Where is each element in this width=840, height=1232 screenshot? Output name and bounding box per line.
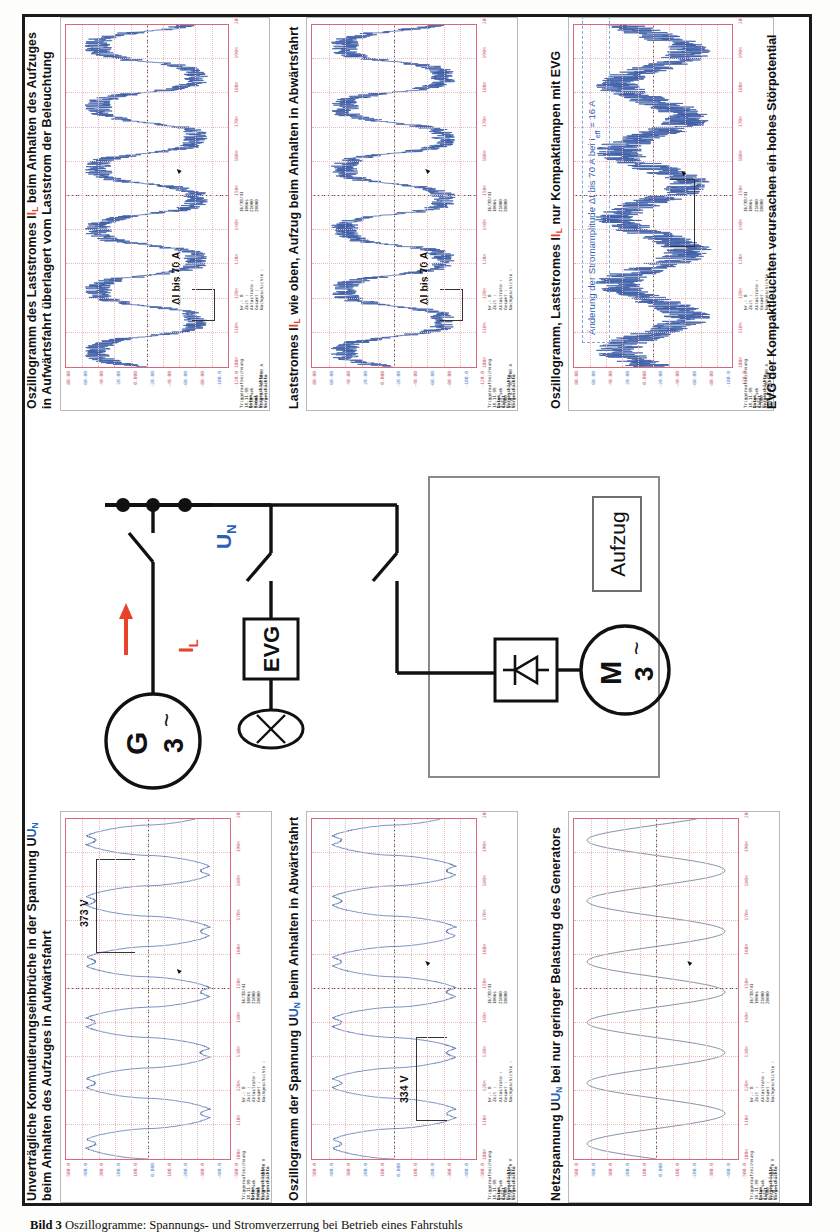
grid-line-h	[427, 25, 428, 367]
y-tick-label: -400.0	[217, 1163, 222, 1180]
parameter-column: 16/38/41100ms2100020000	[487, 983, 507, 1004]
y-tick-label: 20.00	[116, 371, 121, 385]
y-tick-label: 40.00	[608, 371, 613, 385]
parameter-row: 20000	[254, 191, 259, 212]
grid-line-v	[312, 886, 476, 887]
y-tick-label: 500.0	[66, 1163, 71, 1177]
grid-line-v	[312, 127, 476, 128]
caption-line-2: wie oben, Aufzug beim Anhalten in Abwärt…	[287, 27, 301, 319]
y-tick-label: 0.000	[150, 1163, 155, 1177]
grid-line-v	[574, 298, 732, 299]
lift-label: Aufzug	[606, 511, 629, 576]
parameter-column: 16/38/41100ms2100020000	[749, 983, 769, 1004]
y-tick-label: 100.0	[133, 1163, 138, 1177]
y-tick-label: 300.0	[608, 1163, 613, 1177]
grid-line-h	[607, 819, 608, 1159]
grid-line-v	[312, 229, 476, 230]
caption-subscript: L	[554, 228, 564, 233]
y-tick-label: -500.0	[742, 1163, 747, 1180]
scope-parameter-table: Triggeraufzeichnung18.11.995.23 sek2.000…	[241, 814, 269, 1200]
grid-line-h	[717, 25, 718, 367]
grid-line-v	[66, 229, 228, 230]
generator-label-g: G	[120, 732, 153, 755]
caption-subscript: L	[292, 318, 302, 323]
parameter-footer: DatumKanalVorgeschichteVorgeschichte	[758, 1166, 778, 1200]
scope-parameter-table: Triggeraufzeichnung18.11.995.23 sek2.000…	[487, 20, 515, 408]
rotated-figure-stage: Unverträgliche Kommutierungseinbrüche in…	[25, 17, 809, 1203]
column-circuit-diagram: G 3 ~ IL	[25, 415, 809, 805]
parameter-column: Nr.: 8Zeit :Abtastrate :Gesamt :Nachgesc…	[487, 1061, 512, 1102]
scope-y-axis: 80.0060.0040.0020.000.000-20.00-40.00-60…	[573, 370, 733, 408]
grid-line-h	[444, 25, 445, 367]
y-tick-label: 0.000	[380, 371, 385, 385]
generator-tilde: ~	[153, 713, 180, 727]
grid-line-v	[312, 161, 476, 162]
parameter-row: Nachgeschichte :	[508, 269, 513, 310]
parameter-footer-row: Vorgeschichte	[511, 374, 516, 408]
grid-line-v	[574, 263, 732, 264]
grid-line-v	[574, 58, 732, 59]
grid-line-v	[312, 332, 476, 333]
y-tick-label: 80.00	[66, 371, 71, 385]
parameter-row: 20000	[759, 191, 764, 212]
grid-line-v	[312, 852, 476, 853]
grid-line-v	[574, 886, 738, 887]
y-tick-label: -60.00	[430, 371, 435, 388]
y-tick-label: 500.0	[574, 1163, 579, 1177]
y-tick-label: -500.0	[234, 1163, 239, 1180]
grid-line-h	[82, 819, 83, 1159]
caption-line-3: in Aufwärtsfahrt überlagert vom Laststro…	[40, 51, 54, 409]
grid-line-h	[345, 819, 346, 1159]
grid-line-h	[606, 25, 607, 367]
grid-line-h	[669, 25, 670, 367]
parameter-row: Nachgeschichte :	[770, 1061, 775, 1102]
y-tick-label: -300.0	[709, 1163, 714, 1180]
grid-line-v	[66, 92, 228, 93]
grid-line-h	[345, 25, 346, 367]
annotation-text: Änderung der Stromamplitude ΔI bis 70 A …	[586, 138, 597, 335]
grid-line-h	[213, 819, 214, 1159]
y-tick-label: 500.0	[312, 1163, 317, 1177]
grid-line-h	[197, 819, 198, 1159]
panel-il-abwaerts: Laststromes IIL wie oben, Aufzug beim An…	[287, 17, 537, 411]
lighting-switch	[247, 553, 271, 581]
annotation-stromamplitude: Änderung der Stromamplitude ΔI bis 70 A …	[586, 100, 599, 335]
parameter-footer-row: Vorgeschichte	[263, 374, 268, 408]
grid-line-h	[181, 819, 182, 1159]
current-arrow-il	[119, 603, 133, 655]
y-tick-label: -400.0	[726, 1163, 731, 1180]
y-tick-label: 80.00	[312, 371, 317, 385]
y-tick-label: 0.000	[658, 1163, 663, 1177]
oscilloscope-screenshot: 80.0060.0040.0020.000.000-20.00-40.00-60…	[568, 17, 774, 411]
grid-line-v	[66, 195, 228, 196]
caption-subscript: N	[292, 1002, 302, 1008]
y-tick-label: 40.00	[346, 371, 351, 385]
oscilloscope-screenshot: 80.0060.0040.0020.000.000-20.00-40.00-60…	[306, 17, 518, 411]
parameter-row: Nachgeschichte :	[261, 1061, 266, 1102]
grid-line-h	[115, 819, 116, 1159]
y-tick-label: -80.00	[447, 371, 452, 388]
grid-line-v	[66, 298, 228, 299]
scope-y-axis: 500.0400.0300.0200.0100.00.000-100.0-200…	[65, 1162, 231, 1200]
parameter-column: Nr.: 8Zeit :Abtastrate :Gesamt :Nachgesc…	[487, 269, 512, 310]
oscilloscope-screenshot: 500.0400.0300.0200.0100.00.000-100.0-200…	[60, 811, 272, 1203]
scope-plot-area: Änderung der Stromamplitude ΔI bis 70 A …	[573, 24, 733, 368]
caption-line-2: nur Kompaktlampen mit EVG	[549, 51, 563, 228]
y-tick-label: -20.00	[658, 371, 663, 388]
parameter-column: Nr.: 8Zeit :Abtastrate :Gesamt :Nachgesc…	[241, 1061, 266, 1102]
parameter-row: Nachgeschichte :	[259, 269, 264, 310]
y-tick-label: 60.00	[83, 371, 88, 385]
y-tick-label: 0.000	[642, 371, 647, 385]
grid-line-h	[82, 25, 83, 367]
caption-line-1: Unverträgliche Kommutierungseinbrüche in…	[25, 838, 39, 1202]
y-tick-label: -400.0	[464, 1163, 469, 1180]
scope-y-axis: 80.0060.0040.0020.000.000-20.00-40.00-60…	[65, 370, 229, 408]
grid-line-v	[312, 1056, 476, 1057]
y-tick-label: 60.00	[591, 371, 596, 385]
grid-line-v	[574, 229, 732, 230]
grid-line-h	[591, 819, 592, 1159]
grid-line-v	[66, 920, 230, 921]
grid-line-h	[329, 25, 330, 367]
grid-line-v	[574, 1056, 738, 1057]
parameter-row: 20000	[765, 983, 770, 1004]
